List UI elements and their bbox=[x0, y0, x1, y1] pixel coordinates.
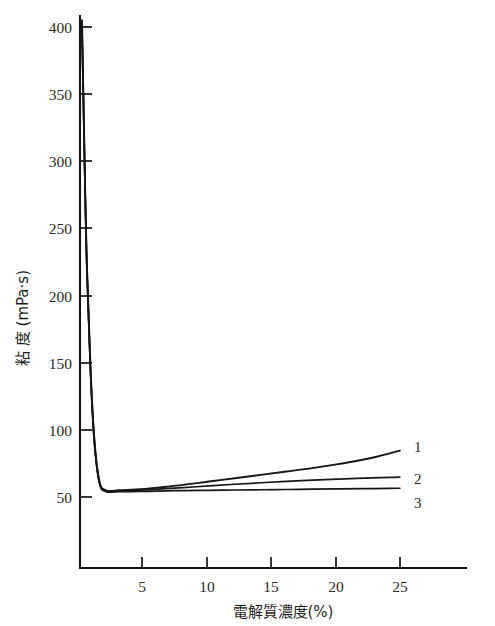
curve-label-1: 1 bbox=[414, 439, 422, 455]
x-axis-ticks bbox=[142, 557, 400, 568]
x-tick-label-5: 5 bbox=[138, 578, 146, 595]
x-axis-tick-labels: 5 10 15 20 25 bbox=[138, 578, 408, 595]
viscosity-concentration-chart: 400 350 300 250 200 150 100 50 5 10 15 2… bbox=[0, 0, 495, 626]
y-axis-title: 粘 度 (mPa·s) bbox=[14, 270, 32, 366]
x-tick-label-10: 10 bbox=[199, 578, 215, 595]
curve-1 bbox=[82, 20, 400, 491]
curve-label-2: 2 bbox=[414, 471, 422, 487]
y-tick-label-50: 50 bbox=[57, 489, 73, 506]
y-tick-label-200: 200 bbox=[49, 288, 73, 305]
y-tick-label-150: 150 bbox=[49, 355, 73, 372]
chart-figure: 400 350 300 250 200 150 100 50 5 10 15 2… bbox=[0, 0, 495, 626]
x-tick-label-20: 20 bbox=[328, 578, 344, 595]
x-axis-title: 電解質濃度(%) bbox=[233, 603, 334, 621]
x-tick-label-15: 15 bbox=[263, 578, 279, 595]
curve-2 bbox=[82, 23, 400, 492]
y-tick-label-400: 400 bbox=[49, 19, 73, 36]
y-tick-label-350: 350 bbox=[49, 86, 73, 103]
y-tick-label-100: 100 bbox=[49, 422, 73, 439]
y-tick-label-300: 300 bbox=[49, 153, 73, 170]
curve-3 bbox=[82, 26, 400, 493]
y-tick-label-250: 250 bbox=[49, 220, 73, 237]
y-axis-tick-labels: 400 350 300 250 200 150 100 50 bbox=[49, 19, 73, 506]
x-tick-label-25: 25 bbox=[392, 578, 408, 595]
curve-label-3: 3 bbox=[414, 495, 422, 511]
